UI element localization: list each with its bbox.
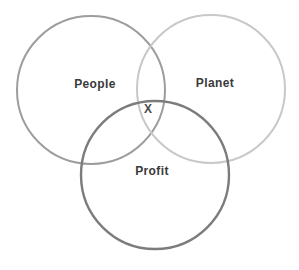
- venn-diagram-canvas: People Planet Profit X: [0, 0, 299, 270]
- profit-label: Profit: [135, 164, 169, 178]
- planet-label: Planet: [196, 76, 234, 90]
- venn-diagram: People Planet Profit X: [0, 0, 299, 270]
- people-label: People: [74, 77, 116, 91]
- intersection-x-marker: X: [144, 102, 152, 116]
